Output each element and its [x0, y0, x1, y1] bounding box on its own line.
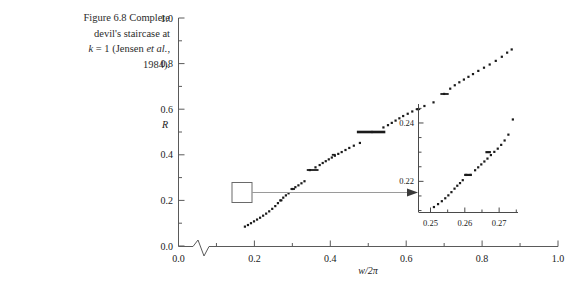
y-tick-label: 0.0 — [161, 241, 174, 252]
data-point — [265, 213, 267, 215]
data-point — [244, 226, 246, 228]
data-point — [472, 73, 474, 75]
x-axis-break-zigzag — [193, 240, 209, 256]
y-tick-label: 0.6 — [161, 104, 174, 115]
data-point — [256, 218, 258, 220]
inset-data-point — [500, 144, 502, 146]
inset-y-tick-marks — [419, 108, 424, 210]
data-point — [271, 208, 273, 210]
data-point — [262, 215, 264, 217]
inset-plateau-steps — [464, 152, 491, 175]
data-point — [337, 153, 339, 155]
data-point — [328, 158, 330, 160]
inset-data-point — [433, 206, 435, 208]
inset-data-point — [480, 163, 482, 165]
inset-y-tick-label: 0.24 — [399, 118, 415, 128]
data-point — [387, 124, 389, 126]
data-point — [477, 70, 479, 72]
data-point — [325, 160, 327, 162]
data-point — [391, 122, 393, 124]
main-x-tick-labels: 0.00.20.40.60.81.0 — [172, 253, 564, 264]
data-point — [511, 48, 513, 50]
inset-data-point — [462, 179, 464, 181]
data-point — [285, 194, 287, 196]
data-point — [250, 222, 252, 224]
data-point — [411, 110, 413, 112]
data-point — [353, 145, 355, 147]
inset-y-tick-label: 0.22 — [399, 176, 414, 186]
main-x-tick-marks — [179, 241, 559, 247]
data-point — [506, 52, 508, 54]
inset-data-point — [453, 188, 455, 190]
data-point — [495, 60, 497, 62]
inset-data-point — [444, 197, 446, 199]
inset-data-point — [507, 134, 509, 136]
inset-data-point — [493, 151, 495, 153]
data-point — [454, 84, 456, 86]
inset-y-tick-labels: 0.220.24 — [399, 118, 415, 186]
inset-x-tick-labels: 0.250.260.27 — [423, 218, 506, 228]
data-point — [300, 182, 302, 184]
data-point — [432, 101, 434, 103]
inset-data-point — [447, 194, 449, 196]
data-point — [259, 217, 261, 219]
data-point — [501, 56, 503, 58]
inset-data-point — [437, 203, 439, 205]
figure-root: Figure 6.8 Complete devil's staircase at… — [0, 0, 570, 281]
x-axis-title: w/2π — [358, 265, 378, 276]
data-point — [402, 115, 404, 117]
data-point — [449, 88, 451, 90]
data-point — [268, 210, 270, 212]
data-point — [359, 142, 361, 144]
y-tick-label: 0.8 — [161, 58, 174, 69]
y-tick-label: 0.4 — [161, 149, 174, 160]
inset-axis-lines — [419, 104, 519, 213]
data-point — [407, 113, 409, 115]
data-point — [314, 166, 316, 168]
inset-data-point — [441, 200, 443, 202]
inset-data-point — [456, 185, 458, 187]
data-point — [247, 224, 249, 226]
data-point — [253, 220, 255, 222]
y-tick-label: 1.0 — [161, 13, 174, 24]
data-point — [341, 151, 343, 153]
data-point — [463, 78, 465, 80]
x-tick-label: 1.0 — [552, 253, 565, 264]
data-point — [489, 63, 491, 65]
data-point — [423, 105, 425, 107]
inset-data-point — [474, 169, 476, 171]
x-tick-label: 0.2 — [248, 253, 261, 264]
data-point — [294, 186, 296, 188]
data-point — [277, 202, 279, 204]
inset-data-points — [433, 118, 514, 208]
y-axis-title: R — [161, 119, 168, 130]
x-tick-label: 0.8 — [476, 253, 489, 264]
inset-data-point — [512, 118, 514, 120]
x-tick-label: 0.0 — [172, 253, 185, 264]
data-point — [458, 81, 460, 83]
main-y-tick-marks — [179, 18, 185, 246]
zoom-highlight-box — [232, 183, 252, 203]
staircase-data-points — [244, 48, 513, 227]
y-tick-label: 0.2 — [161, 195, 174, 206]
data-point — [467, 76, 469, 78]
x-tick-label: 0.6 — [400, 253, 413, 264]
data-point — [282, 197, 284, 199]
inset-data-point — [497, 148, 499, 150]
inset-data-point — [450, 191, 452, 193]
inset-connector-arrowhead — [407, 189, 418, 197]
inset-data-point — [504, 139, 506, 141]
inset-x-tick-label: 0.27 — [492, 218, 507, 228]
x-tick-label: 0.4 — [324, 253, 337, 264]
data-point — [382, 126, 384, 128]
inset-data-point — [477, 166, 479, 168]
data-point — [394, 120, 396, 122]
data-point — [348, 147, 350, 149]
data-point — [297, 184, 299, 186]
data-point — [322, 162, 324, 164]
inset-x-tick-label: 0.25 — [423, 218, 438, 228]
inset-data-point — [459, 182, 461, 184]
data-point — [331, 156, 333, 158]
plot-area: 0.00.20.40.60.81.0 0.00.20.40.60.81.0 R … — [0, 0, 570, 281]
data-point — [303, 180, 305, 182]
